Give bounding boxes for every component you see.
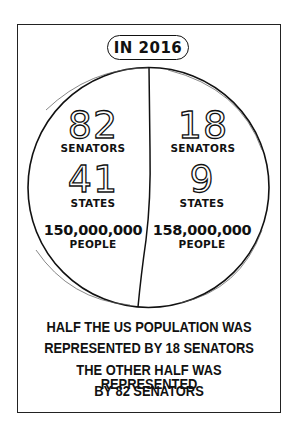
left-states-label: STATES: [33, 198, 153, 209]
left-population-label: PEOPLE: [33, 239, 153, 250]
left-states-count: 41: [33, 160, 153, 198]
year-badge: IN 2016: [107, 35, 189, 60]
left-senators-count: 82: [33, 106, 153, 144]
right-senators-label: SENATORS: [143, 143, 263, 154]
circle-sketch-stroke: [36, 250, 130, 305]
right-population-label: PEOPLE: [142, 239, 262, 250]
right-population: 158,000,000: [142, 223, 262, 238]
left-population: 150,000,000: [33, 223, 153, 238]
right-states-count: 9: [142, 160, 262, 198]
caption-line-4: BY 82 SENATORS: [28, 384, 271, 398]
right-senators-count: 18: [143, 106, 263, 144]
right-states-label: STATES: [142, 198, 262, 209]
left-senators-label: SENATORS: [33, 143, 153, 154]
caption-line-1: HALF THE US POPULATION WAS: [28, 320, 271, 334]
caption-line-2: REPRESENTED BY 18 SENATORS: [28, 341, 271, 355]
